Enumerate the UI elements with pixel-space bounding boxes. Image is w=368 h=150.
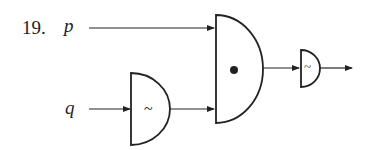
and-gate bbox=[216, 15, 263, 123]
not-out-symbol: ~ bbox=[304, 59, 311, 75]
logic-circuit bbox=[0, 0, 368, 150]
and-dot-icon bbox=[230, 66, 238, 74]
not-q-symbol: ~ bbox=[144, 100, 153, 118]
